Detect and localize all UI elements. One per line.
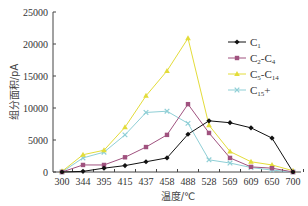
y-tick-label: 5000 (28, 135, 48, 146)
data-point (228, 156, 232, 160)
data-point (270, 166, 274, 170)
series-c1 (59, 118, 295, 174)
y-axis-ticks: 0500010000150002000025000 (23, 7, 56, 178)
data-point (227, 120, 232, 125)
legend-label: C2-C4 (250, 52, 276, 66)
y-axis-title: 组分面积/pA (8, 64, 20, 121)
data-point (207, 131, 211, 135)
data-point (186, 121, 191, 126)
x-axis-title: 温度/℃ (161, 190, 196, 202)
legend-item: C5-C14 (228, 68, 279, 82)
data-point (248, 125, 253, 130)
data-point (269, 135, 274, 140)
y-tick-label: 15000 (23, 71, 48, 82)
data-point (249, 165, 253, 169)
x-tick-label: 488 (181, 176, 196, 187)
x-tick-label: 437 (139, 176, 154, 187)
y-tick-label: 25000 (23, 7, 48, 18)
legend-label: C5-C14 (250, 68, 279, 82)
data-point (186, 102, 190, 106)
x-tick-label: 395 (97, 176, 112, 187)
x-tick-label: 700 (286, 176, 301, 187)
data-point (185, 35, 191, 40)
series-line (62, 121, 293, 172)
line-chart: 0500010000150002000025000 30034439541543… (0, 0, 308, 206)
legend-item: C2-C4 (228, 52, 276, 66)
x-tick-label: 458 (160, 176, 175, 187)
x-tick-label: 528 (202, 176, 217, 187)
series-line (62, 104, 293, 172)
data-point (234, 39, 239, 44)
x-tick-label: 415 (118, 176, 133, 187)
data-point (143, 159, 148, 164)
x-tick-label: 300 (55, 176, 70, 187)
y-tick-label: 20000 (23, 39, 48, 50)
x-tick-label: 569 (223, 176, 238, 187)
data-point (123, 133, 128, 138)
data-point (165, 133, 169, 137)
legend: C1C2-C4C5-C14C15+ (228, 36, 279, 98)
data-point (235, 56, 239, 60)
x-tick-label: 344 (76, 176, 91, 187)
data-point (81, 163, 85, 167)
y-tick-label: 10000 (23, 103, 48, 114)
data-point (122, 163, 127, 168)
y-tick-label: 0 (43, 167, 48, 178)
legend-item: C1 (228, 36, 261, 50)
legend-label: C15+ (250, 84, 271, 98)
data-point (123, 155, 127, 159)
x-tick-label: 650 (265, 176, 280, 187)
data-point (144, 145, 148, 149)
legend-item: C15+ (228, 84, 271, 98)
x-tick-label: 609 (244, 176, 259, 187)
legend-label: C1 (250, 36, 261, 50)
data-point (80, 169, 85, 174)
